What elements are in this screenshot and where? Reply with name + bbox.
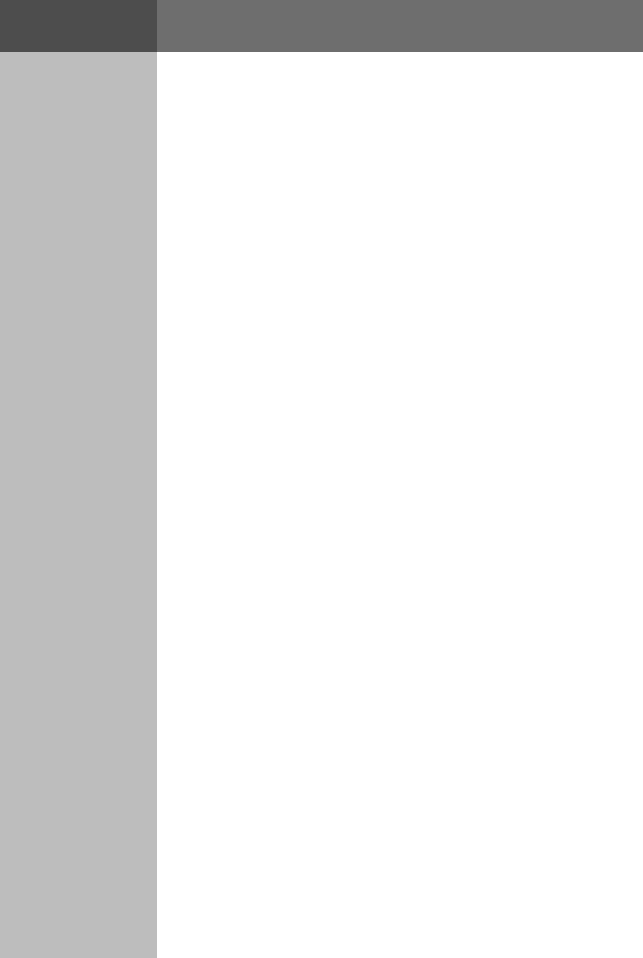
body-area [0, 52, 643, 958]
main-content-area [157, 52, 643, 958]
sidebar-navigation-panel [0, 52, 157, 958]
header-bar [0, 0, 643, 52]
app-window [0, 0, 643, 958]
header-toolbar-region [157, 0, 643, 52]
header-brand-region [0, 0, 157, 52]
